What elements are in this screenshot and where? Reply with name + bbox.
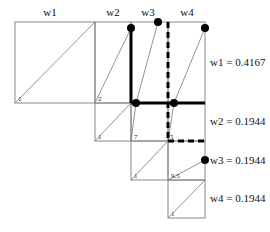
node-dot	[132, 99, 140, 107]
column-label-w2: w2	[106, 6, 119, 18]
cell-r2c4	[168, 103, 205, 141]
cell-r1c3	[131, 22, 168, 103]
cell-label: 5	[170, 133, 174, 141]
column-label-w1: w1	[43, 6, 56, 18]
row-label-w2: w2 = 0.1944	[210, 115, 266, 127]
cell-label: 1	[171, 210, 175, 218]
weight-diagram: w1 w2 w3 w4	[0, 0, 270, 232]
diagonals	[15, 22, 205, 218]
cell-label: 2	[98, 95, 102, 103]
row-label-w1: w1 = 0.4167	[210, 56, 266, 68]
cell-label: 1	[134, 172, 138, 180]
cell-label: 1	[98, 133, 102, 141]
node-dot	[127, 24, 135, 32]
row-label-w4: w4 = 0.1944	[210, 192, 266, 204]
cell-r1c4	[168, 22, 205, 103]
node-dot	[201, 24, 209, 32]
node-dot	[201, 156, 209, 164]
node-dot	[154, 18, 162, 26]
cell-label: 7	[134, 133, 138, 141]
grid	[15, 22, 205, 218]
node-dot	[170, 99, 178, 107]
cell-label: 9.5	[171, 172, 180, 180]
column-label-w4: w4	[180, 6, 194, 18]
alternate-path	[168, 22, 205, 141]
cell-label: 1	[18, 95, 22, 103]
column-label-w3: w3	[141, 6, 155, 18]
row-label-w3: w3 = 0.1944	[210, 154, 266, 166]
